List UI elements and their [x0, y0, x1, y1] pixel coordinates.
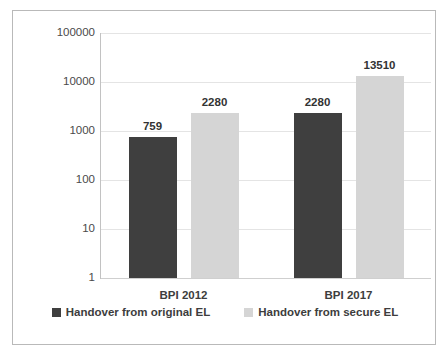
bar-value-label: 2280 — [185, 97, 245, 109]
y-axis-tick-label: 1000 — [69, 125, 95, 137]
y-axis-tick-labels: 110100100010000100000 — [27, 11, 95, 346]
chart-frame: 110100100010000100000 7592280228013510 B… — [12, 10, 436, 345]
bar — [191, 113, 239, 278]
chart-legend: Handover from original ELHandover from s… — [13, 307, 437, 319]
legend-swatch-icon — [52, 308, 61, 317]
legend-swatch-icon — [244, 308, 253, 317]
bar — [356, 76, 404, 278]
y-axis-tick-label: 10 — [82, 223, 95, 235]
x-axis-category-label: BPI 2012 — [124, 290, 244, 302]
bar — [129, 137, 177, 278]
bar-value-label: 759 — [123, 121, 183, 133]
bar — [294, 113, 342, 278]
y-axis-tick-label: 100000 — [57, 27, 95, 39]
y-axis-tick-label: 100 — [76, 174, 95, 186]
legend-label: Handover from original EL — [66, 307, 210, 319]
x-axis-category-label: BPI 2017 — [289, 290, 409, 302]
y-axis-tick-label: 10000 — [63, 76, 95, 88]
y-axis-tick-label: 1 — [89, 272, 95, 284]
bar-chart-figure: 110100100010000100000 7592280228013510 B… — [0, 0, 448, 356]
bar-value-label: 2280 — [288, 97, 348, 109]
legend-entry[interactable]: Handover from original EL — [52, 307, 210, 319]
legend-entry[interactable]: Handover from secure EL — [244, 307, 398, 319]
plot-area: 7592280228013510 — [101, 33, 431, 278]
gridline — [101, 278, 431, 279]
bar-value-label: 13510 — [350, 60, 410, 72]
legend-label: Handover from secure EL — [258, 307, 398, 319]
